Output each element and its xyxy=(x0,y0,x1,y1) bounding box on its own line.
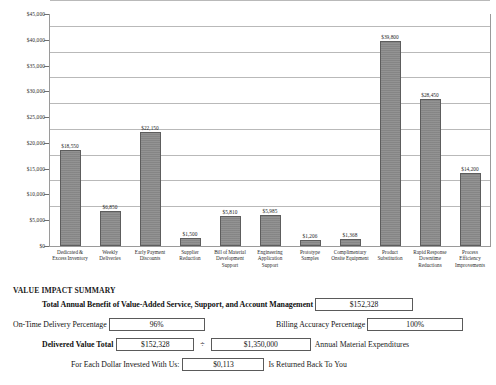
x-axis-category-label: Process Efficiency Improvements xyxy=(450,249,490,268)
y-axis-tick-label: $15,000 xyxy=(1,166,45,172)
bar-value-label: $5,810 xyxy=(223,209,238,215)
bar xyxy=(180,238,201,246)
dollar-return-label: For Each Dollar Invested With Us: xyxy=(71,360,179,369)
y-axis-tick-label: $10,000 xyxy=(1,191,45,197)
bar xyxy=(220,216,241,246)
division-operator: ÷ xyxy=(194,340,210,349)
bar-value-label: $18,550 xyxy=(61,143,79,149)
bar-group: $18,550 xyxy=(50,14,90,246)
x-axis-category-label: Engineering Application Support xyxy=(250,249,290,268)
y-axis-tick-label: $25,000 xyxy=(1,114,45,120)
dollar-return-row: For Each Dollar Invested With Us: $0,113… xyxy=(71,358,347,371)
bar xyxy=(460,173,481,246)
chart-category-labels: Dedicated & Excess InventoryWeekly Deliv… xyxy=(50,249,490,268)
billing-accuracy-value[interactable]: 100% xyxy=(367,318,463,331)
x-axis-category-label: Complimentary Onsite Equipment xyxy=(330,249,370,268)
bar-group: $1,368 xyxy=(330,14,370,246)
dollar-return-trailing-label: Is Returned Back To You xyxy=(268,360,346,369)
on-time-delivery-label: On-Time Delivery Percentage xyxy=(13,320,107,329)
bar-group: $39,800 xyxy=(370,14,410,246)
bar-group: $14,200 xyxy=(450,14,490,246)
delivered-value-numerator[interactable]: $152,328 xyxy=(116,338,194,351)
delivered-value-label: Delivered Value Total xyxy=(42,340,113,349)
bar xyxy=(260,215,281,246)
y-axis-tick-mark xyxy=(44,14,49,15)
y-axis-tick-label: $40,000 xyxy=(1,37,45,43)
bar-group: $5,810 xyxy=(210,14,250,246)
bar-group: $1,206 xyxy=(290,14,330,246)
dollar-return-value[interactable]: $0,113 xyxy=(182,358,264,371)
x-axis-category-label: Weekly Deliveries xyxy=(90,249,130,268)
x-axis-category-label: Product Substitution xyxy=(370,249,410,268)
bar-group: $28,450 xyxy=(410,14,450,246)
bar xyxy=(100,211,121,246)
bar xyxy=(380,41,401,246)
y-axis-tick-mark xyxy=(44,143,49,144)
bar-group: $6,850 xyxy=(90,14,130,246)
bar xyxy=(340,239,361,246)
x-axis-category-label: Early Payment Discounts xyxy=(130,249,170,268)
x-axis-category-label: Supplier Reduction xyxy=(170,249,210,268)
billing-accuracy-row: Billing Accuracy Percentage 100% xyxy=(276,318,463,331)
bar xyxy=(60,150,81,246)
bar-value-label: $1,368 xyxy=(343,232,358,238)
x-axis-category-label: Dedicated & Excess Inventory xyxy=(50,249,90,268)
annual-material-expenditures-label: Annual Material Expenditures xyxy=(315,340,409,349)
y-axis-tick-label: $30,000 xyxy=(1,88,45,94)
y-axis-tick-label: $20,000 xyxy=(1,140,45,146)
y-axis-tick-label: $45,000 xyxy=(1,11,45,17)
y-axis-tick-label: $5,000 xyxy=(1,217,45,223)
bar xyxy=(420,99,441,246)
y-axis-tick-mark xyxy=(44,220,49,221)
bar-value-label: $22,150 xyxy=(141,125,159,131)
bar-value-label: $14,200 xyxy=(461,166,479,172)
bar-group: $22,150 xyxy=(130,14,170,246)
bar-group: $5,985 xyxy=(250,14,290,246)
summary-title: VALUE IMPACT SUMMARY xyxy=(13,286,116,295)
total-benefit-row: Total Annual Benefit of Value-Added Serv… xyxy=(42,298,413,311)
bar xyxy=(140,132,161,246)
y-axis-tick-mark xyxy=(44,169,49,170)
billing-accuracy-label: Billing Accuracy Percentage xyxy=(276,320,365,329)
bar-value-label: $6,850 xyxy=(103,204,118,210)
bar-value-label: $1,500 xyxy=(183,231,198,237)
y-axis-tick-mark xyxy=(44,117,49,118)
y-axis-tick-mark xyxy=(44,246,49,247)
delivered-value-denominator[interactable]: $1,350,000 xyxy=(211,338,311,351)
x-axis-category-label: Prototype Samples xyxy=(290,249,330,268)
total-benefit-value[interactable]: $152,328 xyxy=(315,298,413,311)
total-benefit-label: Total Annual Benefit of Value-Added Serv… xyxy=(42,300,313,309)
y-axis-tick-label: $0 xyxy=(1,243,45,249)
x-axis-category-label: Rapid Response Downtime Reductions xyxy=(410,249,450,268)
y-axis-tick-label: $35,000 xyxy=(1,63,45,69)
bar-value-label: $1,206 xyxy=(303,233,318,239)
gridline xyxy=(50,0,490,1)
on-time-delivery-value[interactable]: 96% xyxy=(109,318,205,331)
on-time-delivery-row: On-Time Delivery Percentage 96% xyxy=(13,318,205,331)
bar-value-label: $28,450 xyxy=(421,92,439,98)
bar xyxy=(300,240,321,246)
bar-value-label: $5,985 xyxy=(263,208,278,214)
y-axis-tick-mark xyxy=(44,66,49,67)
chart-bars-layer: $18,550$6,850$22,150$1,500$5,810$5,985$1… xyxy=(50,14,490,246)
y-axis-tick-mark xyxy=(44,91,49,92)
y-axis-tick-mark xyxy=(44,194,49,195)
value-impact-bar-chart: $45,000$40,000$35,000$30,000$25,000$20,0… xyxy=(0,0,496,285)
x-axis-category-label: Bill of Material Development Support xyxy=(210,249,250,268)
value-impact-summary: VALUE IMPACT SUMMARY Total Annual Benefi… xyxy=(0,284,496,385)
bar-value-label: $39,800 xyxy=(381,34,399,40)
y-axis-tick-mark xyxy=(44,40,49,41)
bar-group: $1,500 xyxy=(170,14,210,246)
delivered-value-row: Delivered Value Total $152,328 ÷ $1,350,… xyxy=(42,338,409,351)
